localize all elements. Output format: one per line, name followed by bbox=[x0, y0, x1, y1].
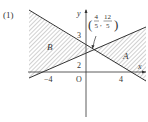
region-b-hatch bbox=[29, 10, 92, 78]
svg-text:5: 5 bbox=[95, 22, 99, 30]
problem-label: (1) bbox=[3, 10, 14, 20]
svg-text:,: , bbox=[100, 20, 102, 28]
y-axis-label: y bbox=[76, 9, 81, 18]
x-axis-label: x bbox=[137, 62, 142, 71]
intersection-label: ( 4 5 , 12 5 ) bbox=[88, 13, 118, 32]
region-b-label: B bbox=[47, 42, 53, 52]
graph: (1) y x O −4 4 3 2 B A ( 4 5 , 12 5 ) bbox=[0, 0, 148, 122]
tick-y-2: 2 bbox=[77, 61, 81, 70]
y-axis-arrow-icon bbox=[85, 9, 88, 13]
tick-y-3: 3 bbox=[77, 31, 81, 40]
region-a-hatch bbox=[92, 27, 146, 81]
origin-label: O bbox=[76, 75, 82, 84]
svg-text:5: 5 bbox=[106, 22, 110, 30]
svg-text:): ) bbox=[114, 17, 118, 32]
region-a-label: A bbox=[122, 51, 129, 61]
svg-text:12: 12 bbox=[104, 13, 112, 21]
svg-text:4: 4 bbox=[95, 13, 99, 21]
svg-text:(: ( bbox=[88, 17, 92, 32]
tick-x-neg4: −4 bbox=[44, 75, 53, 84]
tick-x-4: 4 bbox=[119, 75, 123, 84]
